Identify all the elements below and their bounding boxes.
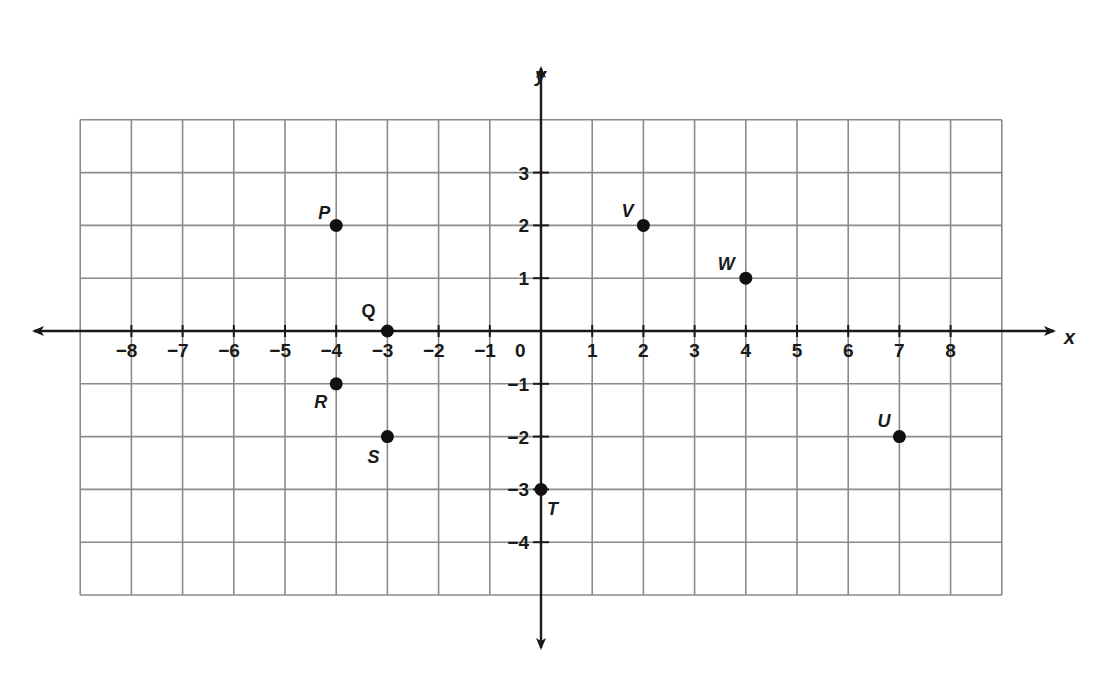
point-t: T	[535, 483, 561, 520]
point-label: Q	[361, 301, 375, 321]
x-tick-label: 4	[741, 340, 752, 361]
point-marker	[535, 483, 548, 496]
point-marker	[381, 430, 394, 443]
y-tick-label: 3	[518, 163, 529, 184]
x-tick-label: −7	[167, 340, 189, 361]
point-label: R	[314, 392, 327, 412]
x-tick-label: 3	[689, 340, 700, 361]
y-tick-label: −3	[507, 479, 529, 500]
y-axis-label: y	[534, 64, 547, 86]
x-tick-label: 2	[638, 340, 649, 361]
point-label: V	[621, 201, 635, 221]
y-tick-label: 2	[518, 215, 529, 236]
point-p: P	[318, 203, 343, 232]
coordinate-plane: −8−7−6−5−4−3−2−112345678321−1−2−3−4 PQRS…	[0, 0, 1107, 675]
x-tick-label: −5	[269, 340, 291, 361]
y-tick-label: 1	[518, 268, 529, 289]
x-tick-label: −3	[372, 340, 394, 361]
point-v: V	[621, 201, 650, 232]
x-tick-label: −1	[474, 340, 496, 361]
point-u: U	[877, 411, 906, 444]
plotted-points: PQRSTUVW	[314, 201, 906, 519]
point-marker	[330, 377, 343, 390]
x-tick-label: 1	[587, 340, 598, 361]
point-marker	[330, 219, 343, 232]
point-w: W	[718, 254, 753, 285]
tick-labels: −8−7−6−5−4−3−2−112345678321−1−2−3−4	[116, 163, 956, 554]
point-label: T	[547, 499, 560, 519]
point-label: W	[718, 254, 737, 274]
y-tick-label: −4	[507, 532, 529, 553]
point-label: P	[318, 203, 331, 223]
point-label: U	[877, 411, 891, 431]
point-r: R	[314, 377, 343, 412]
point-s: S	[367, 430, 394, 467]
x-tick-label: 8	[945, 340, 956, 361]
point-marker	[893, 430, 906, 443]
x-tick-label: 5	[792, 340, 803, 361]
x-tick-label: 6	[843, 340, 854, 361]
x-tick-label: −8	[116, 340, 138, 361]
point-marker	[381, 325, 394, 338]
x-tick-label: −4	[321, 340, 343, 361]
point-label: S	[367, 447, 379, 467]
x-axis-label: x	[1063, 326, 1076, 348]
y-tick-label: −1	[507, 374, 529, 395]
x-tick-label: −6	[218, 340, 240, 361]
point-marker	[739, 272, 752, 285]
origin-label: 0	[515, 340, 526, 361]
x-tick-label: 7	[894, 340, 905, 361]
point-marker	[637, 219, 650, 232]
y-tick-label: −2	[507, 427, 529, 448]
x-tick-label: −2	[423, 340, 445, 361]
